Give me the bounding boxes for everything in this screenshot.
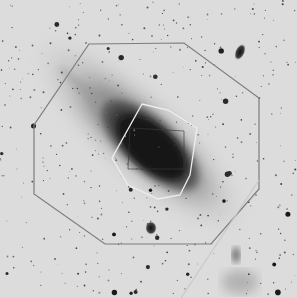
star xyxy=(231,174,233,176)
star xyxy=(108,51,110,53)
star xyxy=(8,60,9,61)
star xyxy=(270,61,271,62)
star xyxy=(150,97,152,99)
star xyxy=(280,145,281,146)
star xyxy=(71,168,73,170)
star xyxy=(205,242,206,243)
star xyxy=(69,6,70,7)
star xyxy=(220,186,222,188)
star xyxy=(40,272,41,273)
star xyxy=(179,230,180,231)
star xyxy=(164,29,165,30)
star xyxy=(273,282,274,283)
star xyxy=(187,245,188,246)
star xyxy=(189,250,191,252)
star xyxy=(201,75,202,76)
star xyxy=(47,170,48,171)
star xyxy=(77,216,78,217)
star xyxy=(255,259,256,260)
star xyxy=(57,79,59,81)
star xyxy=(85,263,87,265)
star xyxy=(90,137,91,138)
star xyxy=(232,153,234,155)
star xyxy=(249,133,251,135)
star xyxy=(105,158,106,159)
star xyxy=(107,47,110,50)
star xyxy=(250,13,251,14)
star xyxy=(84,235,86,237)
star xyxy=(143,220,144,221)
star xyxy=(69,229,70,230)
star xyxy=(283,160,285,162)
star xyxy=(108,18,109,19)
star xyxy=(256,251,258,253)
star xyxy=(214,43,215,44)
star xyxy=(264,53,265,54)
star xyxy=(59,165,61,167)
star xyxy=(33,89,35,91)
star xyxy=(163,10,165,12)
star xyxy=(134,198,135,199)
star xyxy=(60,82,62,84)
star xyxy=(154,246,155,247)
star xyxy=(241,141,243,143)
star xyxy=(225,146,227,148)
star xyxy=(264,18,265,19)
star xyxy=(218,220,220,222)
star xyxy=(143,74,144,75)
star xyxy=(291,194,293,196)
star xyxy=(219,214,220,215)
star xyxy=(267,293,269,295)
star xyxy=(208,134,209,135)
star xyxy=(165,207,168,210)
star xyxy=(179,3,180,4)
star xyxy=(112,233,116,237)
star xyxy=(75,27,77,29)
galaxy-scene xyxy=(0,0,297,298)
star xyxy=(136,289,137,290)
star xyxy=(7,256,9,258)
star xyxy=(216,196,217,197)
star xyxy=(199,143,200,144)
star xyxy=(83,12,84,13)
star xyxy=(286,208,288,210)
star xyxy=(112,290,117,295)
star xyxy=(98,124,99,125)
star xyxy=(173,19,175,21)
star xyxy=(171,238,172,239)
star xyxy=(222,181,224,183)
star xyxy=(132,39,134,41)
star xyxy=(227,200,228,201)
star xyxy=(66,142,68,144)
star xyxy=(3,175,4,176)
star xyxy=(43,166,44,167)
star xyxy=(293,254,295,256)
star xyxy=(190,24,191,25)
star xyxy=(190,277,191,278)
star xyxy=(9,68,10,69)
star xyxy=(120,14,121,15)
star xyxy=(235,171,236,172)
star xyxy=(156,234,158,236)
star xyxy=(22,79,23,80)
star xyxy=(287,62,288,63)
star xyxy=(234,8,235,9)
star xyxy=(10,127,12,129)
star xyxy=(271,113,272,114)
star xyxy=(176,122,177,123)
star xyxy=(84,181,86,183)
star xyxy=(283,40,284,41)
star xyxy=(213,159,214,160)
star xyxy=(161,39,162,40)
star xyxy=(147,119,148,120)
star xyxy=(280,233,281,234)
star xyxy=(190,69,191,70)
star xyxy=(23,183,24,184)
star xyxy=(157,211,159,213)
star xyxy=(250,205,251,206)
star xyxy=(179,49,181,51)
star xyxy=(122,202,123,203)
star xyxy=(143,27,145,29)
star xyxy=(54,258,56,260)
star xyxy=(154,207,156,209)
